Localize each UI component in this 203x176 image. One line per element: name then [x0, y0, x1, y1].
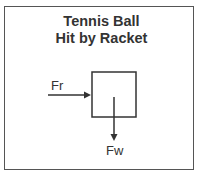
free-body-diagram — [0, 0, 203, 176]
weight-force-label: Fw — [106, 143, 123, 158]
weight-force-arrow-icon — [111, 97, 118, 141]
racket-force-label: Fr — [51, 78, 63, 93]
